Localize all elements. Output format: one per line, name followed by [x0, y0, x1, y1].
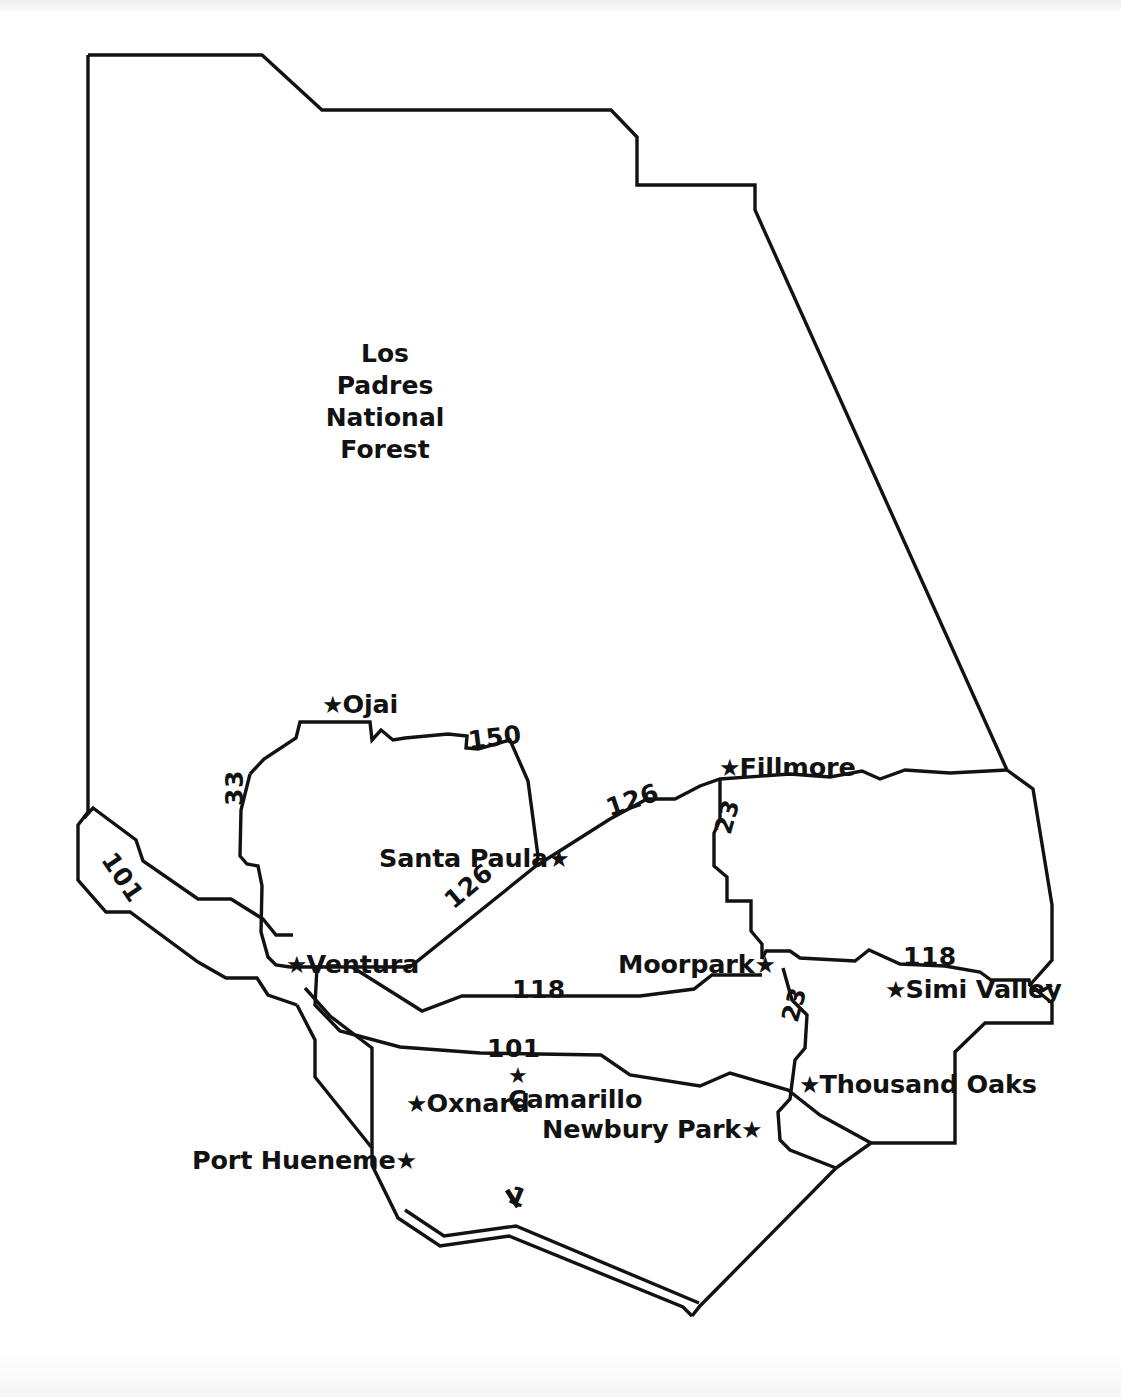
city-name-simi-valley: Simi Valley: [906, 974, 1062, 1004]
city-label-newbury-park: Newbury Park★: [542, 1117, 762, 1143]
city-label-ventura: ★Ventura: [286, 952, 419, 978]
city-star-port-hueneme: ★: [396, 1147, 417, 1175]
route-label-33: 33: [222, 770, 247, 806]
route-label-150: 150: [467, 722, 523, 753]
forest-label-line-4: Forest: [305, 434, 465, 466]
city-label-fillmore: ★Fillmore: [719, 755, 856, 781]
city-name-thousand-oaks: Thousand Oaks: [820, 1069, 1037, 1099]
city-name-camarillo: Camarillo: [508, 1084, 642, 1114]
ventura-county-map: Los Padres National Forest ★Ojai ★Fillmo…: [0, 0, 1121, 1397]
city-label-simi-valley: ★Simi Valley: [885, 977, 1062, 1003]
forest-label-line-1: Los: [305, 338, 465, 370]
city-name-newbury-park: Newbury Park: [542, 1114, 741, 1144]
forest-label-line-2: Padres: [305, 370, 465, 402]
city-star-thousand-oaks: ★: [799, 1071, 820, 1099]
forest-label-line-3: National: [305, 402, 465, 434]
coastline-south-inner: [405, 1210, 699, 1303]
city-name-moorpark: Moorpark: [618, 949, 754, 979]
city-star-simi-valley: ★: [885, 976, 906, 1004]
city-star-fillmore: ★: [719, 754, 740, 782]
city-star-ojai: ★: [322, 691, 343, 719]
city-label-moorpark: Moorpark★: [618, 952, 775, 978]
city-name-santa-paula: Santa Paula: [379, 843, 548, 873]
city-label-thousand-oaks: ★Thousand Oaks: [799, 1072, 1037, 1098]
route-label-118-east: 118: [903, 944, 957, 969]
route-label-101-south: 101: [487, 1036, 541, 1061]
route-label-118-west: 118: [512, 977, 566, 1002]
city-label-ojai: ★Ojai: [322, 692, 398, 718]
city-name-ventura: Ventura: [307, 949, 420, 979]
city-star-newbury-park: ★: [741, 1116, 762, 1144]
city-star-oxnard: ★: [406, 1090, 427, 1118]
city-star-santa-paula: ★: [548, 845, 569, 873]
map-geometry: [0, 0, 1121, 1397]
label-los-padres-national-forest: Los Padres National Forest: [305, 338, 465, 466]
city-name-fillmore: Fillmore: [740, 752, 856, 782]
city-name-port-hueneme: Port Hueneme: [192, 1145, 396, 1175]
city-name-ojai: Ojai: [343, 689, 399, 719]
city-label-port-hueneme: Port Hueneme★: [192, 1148, 416, 1174]
city-star-moorpark: ★: [754, 951, 775, 979]
city-star-ventura: ★: [286, 951, 307, 979]
city-label-camarillo: Camarillo: [508, 1087, 642, 1113]
